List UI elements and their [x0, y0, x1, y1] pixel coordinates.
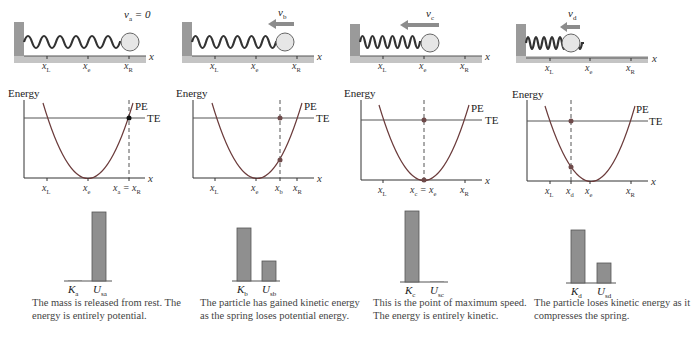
velocity-arrow: [560, 22, 567, 32]
ball: [121, 33, 139, 51]
potential-label: Usa: [93, 283, 107, 298]
te-label: TE: [649, 115, 662, 127]
graph-tick-xb: xb: [275, 182, 283, 195]
energy-axis-label: Energy: [512, 88, 544, 100]
caption: The particle loses kinetic energy as it …: [534, 297, 694, 322]
graph-tick-xR: xR: [626, 185, 635, 198]
kinetic-bar: [571, 230, 585, 283]
graph-x-axis-label: x: [148, 172, 153, 184]
velocity-label: vc: [426, 7, 434, 22]
potential-bar: [92, 212, 106, 281]
energy-marker: [127, 116, 132, 121]
wall: [14, 22, 24, 56]
velocity-arrow: [400, 20, 408, 30]
graph-tick-xc-eq-xe: xc = xe: [410, 184, 436, 197]
panel-c: vc xL xe xR x Energy PE TE x xL xc = xe …: [340, 0, 508, 351]
kinetic-bar: [237, 228, 251, 281]
pe-label: PE: [135, 100, 148, 112]
pe-label: PE: [636, 103, 649, 115]
ball: [562, 34, 580, 52]
tick-xL: xL: [210, 60, 218, 73]
pe-label: PE: [471, 102, 484, 114]
potential-bar: [597, 263, 611, 283]
panel-c-graphics: [340, 0, 508, 300]
ball: [276, 33, 294, 51]
spring-x-axis-label: x: [149, 50, 154, 62]
panel-d-graphics: [502, 0, 670, 300]
potential-bar: [262, 261, 276, 281]
panel-a-graphics: [0, 0, 168, 300]
panel-d: vd xL xe xR x Energy PE TE x xL xd xe xR…: [502, 0, 670, 351]
energy-axis-label: Energy: [344, 87, 376, 99]
kinetic-bar: [405, 211, 419, 282]
potential-bar: [430, 281, 444, 282]
graph-x-axis-label: x: [485, 174, 490, 186]
panel-a: va = 0 xL xe xR x Energy PE TE x xL xe x…: [0, 0, 168, 351]
tick-xR: xR: [460, 60, 469, 73]
tick-xR: xR: [292, 60, 301, 73]
tick-xL: xL: [545, 62, 553, 75]
spring-x-axis-label: x: [652, 52, 657, 64]
tick-xe: xe: [251, 60, 258, 73]
tick-xL: xL: [42, 60, 50, 73]
spring-x-axis-label: x: [317, 50, 322, 62]
ball: [421, 34, 439, 52]
te-label: TE: [147, 112, 160, 124]
graph-tick-xL: xL: [378, 184, 386, 197]
spring-x-axis-label: x: [485, 50, 490, 62]
energy-axis-label: Energy: [176, 87, 208, 99]
tick-xe: xe: [419, 60, 426, 73]
spring: [360, 36, 422, 48]
kinetic-label: Kb: [237, 283, 248, 298]
caption: The mass is released from rest. The ener…: [32, 297, 192, 322]
panel-b: vb xL xe xR x Energy PE TE x xL xe xb xR…: [170, 0, 338, 351]
kinetic-bar: [68, 280, 82, 281]
caption: The particle has gained kinetic energy a…: [200, 297, 360, 322]
energy-axis-label: Energy: [8, 87, 40, 99]
graph-tick-xd: xd: [566, 185, 574, 198]
graph-tick-xa-eq-xR: xa = xR: [113, 182, 141, 195]
spring: [24, 36, 124, 48]
graph-tick-xe: xe: [251, 182, 258, 195]
tick-xe: xe: [83, 60, 90, 73]
graph-tick-xR: xR: [293, 182, 302, 195]
pe-curve: [43, 103, 133, 179]
graph-tick-xe: xe: [83, 182, 90, 195]
te-label: TE: [316, 112, 329, 124]
potential-label: Usb: [262, 283, 276, 298]
graph-x-axis-label: x: [651, 175, 656, 187]
velocity-arrow: [268, 19, 276, 29]
te-label: TE: [485, 114, 498, 126]
tick-xL: xL: [378, 60, 386, 73]
velocity-label: va = 0: [124, 8, 150, 23]
graph-tick-xL: xL: [42, 182, 50, 195]
tick-xR: xR: [124, 60, 133, 73]
graph-tick-xL: xL: [545, 185, 553, 198]
velocity-label: vb: [278, 6, 286, 21]
kinetic-label: Ka: [68, 283, 78, 298]
graph-tick-xL: xL: [210, 182, 218, 195]
pe-label: PE: [304, 100, 317, 112]
graph-tick-xe: xe: [585, 185, 592, 198]
panel-b-graphics: [170, 0, 338, 300]
tick-xR: xR: [626, 62, 635, 75]
graph-x-axis-label: x: [317, 172, 322, 184]
velocity-label: vd: [568, 7, 576, 22]
tick-xe: xe: [585, 62, 592, 75]
spring: [192, 36, 278, 48]
graph-tick-xR: xR: [460, 184, 469, 197]
